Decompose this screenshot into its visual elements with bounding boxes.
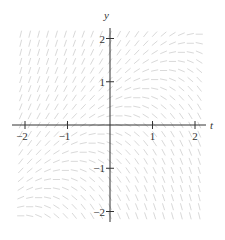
- direction-segment: [189, 149, 191, 155]
- direction-segment: [100, 50, 103, 56]
- direction-segment: [73, 40, 75, 46]
- direction-segment: [189, 104, 193, 109]
- direction-segment: [180, 140, 183, 146]
- direction-segment: [178, 43, 184, 44]
- direction-segment: [188, 69, 193, 72]
- direction-segment: [55, 113, 59, 118]
- direction-segment: [38, 40, 40, 46]
- direction-segment: [20, 104, 22, 110]
- direction-segment: [81, 95, 85, 100]
- direction-segment: [72, 187, 77, 190]
- direction-segment: [172, 204, 174, 210]
- direction-segment: [160, 79, 166, 80]
- direction-segment: [90, 177, 95, 181]
- direction-segment: [153, 186, 155, 192]
- direction-segment: [29, 77, 31, 83]
- direction-segment: [172, 213, 174, 219]
- direction-segment: [27, 197, 33, 198]
- direction-segment: [55, 104, 58, 109]
- direction-segment: [163, 213, 165, 219]
- direction-segment: [152, 60, 158, 62]
- direction-segment: [82, 68, 85, 74]
- direction-segment: [80, 143, 86, 144]
- direction-segment: [180, 195, 182, 201]
- x-tick-label: −1: [59, 130, 71, 142]
- direction-segment: [126, 195, 129, 201]
- direction-segment: [73, 95, 77, 100]
- direction-segment: [153, 149, 156, 154]
- direction-segment: [72, 104, 76, 109]
- direction-segment: [72, 114, 76, 119]
- direction-segment: [170, 78, 176, 80]
- direction-segment: [144, 32, 148, 37]
- direction-segment: [91, 59, 94, 65]
- direction-segment: [73, 58, 76, 64]
- direction-segment: [45, 150, 50, 154]
- direction-segment: [46, 58, 48, 64]
- direction-segment: [19, 150, 23, 155]
- direction-segment: [71, 152, 77, 153]
- direction-segment: [180, 149, 183, 155]
- t-axis-label: t: [210, 119, 214, 131]
- direction-segment: [117, 59, 121, 64]
- direction-segment: [73, 49, 75, 55]
- direction-segment: [180, 167, 182, 173]
- direction-segment: [198, 195, 200, 201]
- direction-segment: [180, 176, 182, 182]
- direction-segment: [172, 195, 174, 201]
- direction-segment: [153, 168, 156, 174]
- direction-segment: [117, 159, 121, 164]
- direction-segment: [162, 186, 164, 192]
- direction-segment: [62, 151, 68, 153]
- direction-segment: [135, 41, 139, 46]
- direction-segment: [117, 177, 121, 182]
- direction-segment: [28, 113, 31, 119]
- direction-segment: [73, 77, 76, 83]
- direction-segment: [169, 52, 175, 53]
- direction-segment: [198, 167, 200, 173]
- direction-segment: [27, 215, 33, 216]
- slope-field-chart: −2−112−2−112 t y: [0, 0, 225, 240]
- direction-segment: [135, 141, 139, 146]
- direction-segment: [55, 68, 57, 74]
- direction-segment: [170, 113, 174, 118]
- direction-segment: [171, 186, 173, 192]
- direction-segment: [197, 95, 201, 100]
- direction-segment: [53, 170, 59, 171]
- direction-segment: [19, 159, 23, 164]
- direction-segment: [37, 113, 40, 119]
- direction-segment: [64, 58, 66, 64]
- direction-segment: [90, 195, 94, 200]
- direction-segment: [55, 40, 57, 46]
- direction-segment: [28, 104, 31, 110]
- direction-segment: [55, 95, 58, 101]
- direction-segment: [99, 195, 103, 200]
- direction-segment: [81, 187, 86, 191]
- direction-segment: [117, 195, 120, 201]
- direction-segment: [19, 168, 23, 173]
- direction-segment: [81, 213, 85, 218]
- direction-segment: [187, 34, 193, 35]
- direction-segment: [134, 132, 139, 136]
- direction-segment: [135, 177, 138, 183]
- direction-segment: [36, 215, 42, 217]
- direction-segment: [161, 96, 166, 99]
- direction-segment: [126, 159, 130, 164]
- direction-segment: [29, 31, 31, 37]
- direction-segment: [63, 196, 68, 199]
- direction-segment: [47, 40, 49, 46]
- direction-segment: [187, 60, 193, 62]
- direction-segment: [126, 168, 130, 173]
- direction-segment: [62, 179, 68, 180]
- direction-segment: [170, 32, 175, 35]
- direction-segment: [143, 69, 149, 71]
- direction-segment: [152, 114, 157, 118]
- direction-segment: [179, 78, 184, 81]
- direction-segment: [144, 159, 147, 164]
- y-tick-label: −1: [93, 162, 105, 174]
- direction-segment: [27, 159, 31, 164]
- direction-segment: [161, 105, 166, 109]
- direction-segment: [126, 150, 130, 155]
- direction-segment: [180, 131, 183, 137]
- direction-segment: [161, 87, 167, 89]
